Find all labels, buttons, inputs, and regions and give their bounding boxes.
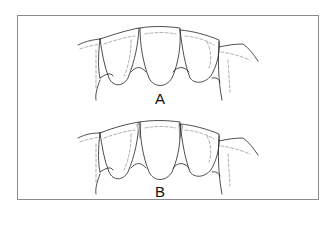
panel-a-drawing bbox=[78, 27, 258, 101]
panel-label-a: A bbox=[150, 91, 170, 106]
panel-label-b: B bbox=[150, 184, 170, 199]
panel-b-drawing bbox=[78, 121, 258, 195]
